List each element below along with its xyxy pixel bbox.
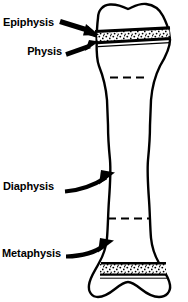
label-metaphysis: Metaphysis — [2, 247, 61, 259]
diaphysis-arrow — [65, 170, 115, 192]
bone-silhouette — [89, 4, 170, 297]
label-epiphysis: Epiphysis — [3, 16, 54, 28]
bone-outline — [89, 4, 170, 297]
label-diaphysis: Diaphysis — [3, 180, 54, 192]
bone-anatomy-figure: Epiphysis Physis Diaphysis Metaphysis — [0, 0, 188, 302]
epiphysis-arrow — [60, 22, 99, 38]
physis-arrow — [66, 40, 99, 55]
label-physis: Physis — [27, 45, 62, 57]
